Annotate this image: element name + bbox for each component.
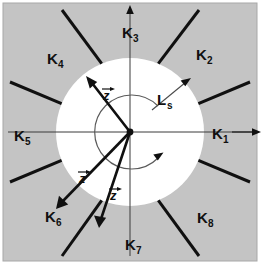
sector-label-k1-sub: 1 bbox=[223, 134, 229, 145]
vector-label-z-lower-left-text: z bbox=[78, 171, 86, 186]
vector-label-z-lower-right-text: z bbox=[109, 188, 117, 203]
sector-label-k4-letter: K bbox=[47, 50, 58, 67]
sector-label-k3-letter: K bbox=[122, 24, 133, 41]
vector-label-z-upper-left-text: z bbox=[102, 88, 110, 103]
sector-label-k2-letter: K bbox=[196, 46, 207, 63]
radius-label-ls-letter: L bbox=[157, 91, 166, 108]
sector-vector-diagram: K 1 K 2 K 3 K 4 K 5 K 6 K bbox=[0, 0, 263, 273]
sector-label-k3-sub: 3 bbox=[133, 33, 139, 44]
origin-point bbox=[127, 129, 134, 136]
sector-label-k6-sub: 6 bbox=[56, 217, 62, 228]
sector-label-k5-sub: 5 bbox=[25, 136, 31, 147]
radius-label-ls-sub: s bbox=[167, 100, 173, 111]
sector-label-k8-letter: K bbox=[197, 209, 208, 226]
sector-label-k7-sub: 7 bbox=[136, 245, 142, 256]
sector-label-k2-sub: 2 bbox=[207, 55, 213, 66]
figure-container: K 1 K 2 K 3 K 4 K 5 K 6 K bbox=[0, 0, 263, 273]
sector-label-k5-letter: K bbox=[14, 127, 25, 144]
sector-label-k1-letter: K bbox=[212, 125, 223, 142]
sector-label-k4-sub: 4 bbox=[58, 59, 64, 70]
sector-label-k6-letter: K bbox=[45, 208, 56, 225]
sector-label-k8-sub: 8 bbox=[208, 218, 214, 229]
sector-label-k7-letter: K bbox=[125, 236, 136, 253]
